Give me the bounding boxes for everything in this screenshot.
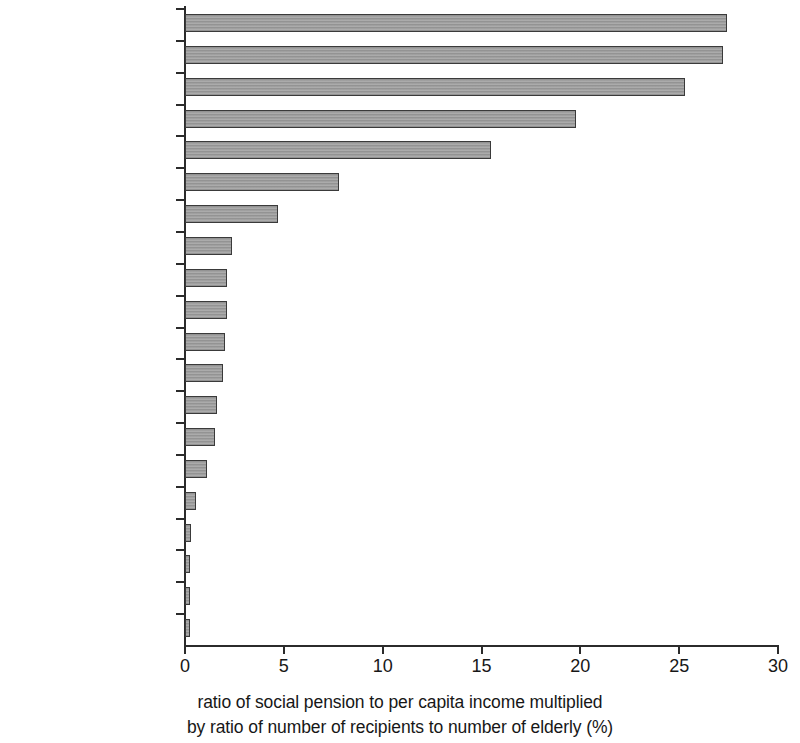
bar bbox=[185, 46, 723, 64]
category-axis-tick bbox=[176, 581, 185, 583]
bar bbox=[185, 555, 190, 573]
bar-row: Uruguay bbox=[185, 454, 778, 486]
bar bbox=[185, 524, 191, 542]
bar bbox=[185, 14, 727, 32]
value-axis-tick bbox=[184, 645, 186, 654]
value-axis-tick-label: 5 bbox=[279, 657, 289, 675]
bar bbox=[185, 492, 196, 510]
bar-row: Mauritius bbox=[185, 40, 778, 72]
bar bbox=[185, 205, 278, 223]
category-axis-tick bbox=[176, 518, 185, 520]
bar bbox=[185, 428, 215, 446]
bar-row: Bangladesh bbox=[185, 390, 778, 422]
bar bbox=[185, 173, 339, 191]
x-axis-title-line-1: ratio of social pension to per capita in… bbox=[0, 690, 800, 715]
bar-row: Russian Federation bbox=[185, 486, 778, 518]
bar bbox=[185, 364, 223, 382]
bar-row: Estonia bbox=[185, 549, 778, 581]
category-axis-tick bbox=[176, 422, 185, 424]
category-axis-tick bbox=[176, 104, 185, 106]
bar-row: India bbox=[185, 422, 778, 454]
bar-row: Brazil bbox=[185, 135, 778, 167]
category-axis-tick bbox=[176, 8, 185, 10]
bar-row: Turkey bbox=[185, 263, 778, 295]
value-axis-tick bbox=[777, 645, 779, 654]
bar-row: Colombia bbox=[185, 327, 778, 359]
bar-row: Botswana bbox=[185, 167, 778, 199]
bar-row: Dominican Republic bbox=[185, 613, 778, 645]
bar bbox=[185, 333, 225, 351]
bar bbox=[185, 619, 190, 637]
value-axis-tick bbox=[678, 645, 680, 654]
bar-row: Nepal bbox=[185, 199, 778, 231]
bar bbox=[185, 110, 576, 128]
bar-row: Costa Rica bbox=[185, 295, 778, 327]
value-axis-tick-label: 10 bbox=[373, 657, 393, 675]
bar-row: Algeria bbox=[185, 581, 778, 613]
category-axis-tick bbox=[176, 199, 185, 201]
value-axis-tick-label: 25 bbox=[669, 657, 689, 675]
bar bbox=[185, 141, 491, 159]
bar bbox=[185, 301, 227, 319]
bar-row: South Africa bbox=[185, 8, 778, 40]
bar-chart: South AfricaMauritiusBoliviaNamibiaBrazi… bbox=[0, 0, 800, 743]
value-axis-tick-label: 0 bbox=[180, 657, 190, 675]
category-axis-tick bbox=[176, 295, 185, 297]
value-axis-tick-label: 20 bbox=[570, 657, 590, 675]
value-axis-tick-label: 30 bbox=[768, 657, 788, 675]
x-axis-title: ratio of social pension to per capita in… bbox=[0, 690, 800, 741]
value-axis-tick bbox=[579, 645, 581, 654]
bar bbox=[185, 460, 207, 478]
bar-row: Argentina bbox=[185, 518, 778, 550]
value-axis-tick bbox=[382, 645, 384, 654]
category-axis-tick bbox=[176, 167, 185, 169]
bar bbox=[185, 587, 190, 605]
category-axis-tick bbox=[176, 390, 185, 392]
value-axis-tick-label: 15 bbox=[471, 657, 491, 675]
category-axis-tick bbox=[176, 454, 185, 456]
category-axis-tick bbox=[176, 40, 185, 42]
bar bbox=[185, 396, 217, 414]
category-axis-tick bbox=[176, 486, 185, 488]
bar bbox=[185, 237, 232, 255]
value-axis-tick bbox=[283, 645, 285, 654]
category-axis-tick bbox=[176, 135, 185, 137]
category-axis-tick bbox=[176, 263, 185, 265]
category-axis-tick bbox=[176, 549, 185, 551]
bar bbox=[185, 269, 227, 287]
bar-row: Bolivia bbox=[185, 72, 778, 104]
category-axis-tick bbox=[176, 72, 185, 74]
category-axis-tick bbox=[176, 231, 185, 233]
category-axis-tick bbox=[176, 358, 185, 360]
bar-row: Chile bbox=[185, 358, 778, 390]
bar bbox=[185, 78, 685, 96]
plot-area: South AfricaMauritiusBoliviaNamibiaBrazi… bbox=[185, 8, 778, 645]
category-axis-tick bbox=[176, 613, 185, 615]
bar-rows: South AfricaMauritiusBoliviaNamibiaBrazi… bbox=[185, 8, 778, 645]
bar-row: Namibia bbox=[185, 104, 778, 136]
x-axis-title-line-2: by ratio of number of recipients to numb… bbox=[0, 715, 800, 740]
category-axis-tick bbox=[176, 327, 185, 329]
value-axis-tick bbox=[481, 645, 483, 654]
bar-row: Egypt, Arab Rep. bbox=[185, 231, 778, 263]
